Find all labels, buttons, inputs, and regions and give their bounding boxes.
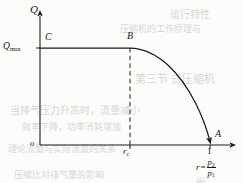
x-tick-label-rc-subscript: c: [127, 150, 130, 157]
y-tick-label-qmax-main: Q: [3, 41, 10, 51]
y-tick-label-qmax: Qmax: [3, 42, 20, 52]
x-tick-label-rc-main: r: [123, 146, 127, 156]
y-axis-label: Q: [30, 4, 38, 15]
figure-container: 运行特性压缩机的工作原理与第三节 式压缩机当排气压力升高时，流量减小效率下降，功…: [0, 0, 243, 183]
origin-label: o: [30, 139, 34, 148]
flow-characteristic-curve: [40, 48, 209, 139]
fraction-denominator-subscript: 1: [212, 172, 215, 178]
x-tick-label-rc: rc: [123, 147, 129, 156]
x-axis-label-expression: r= p2 p1: [196, 158, 216, 177]
fraction-denominator: p1: [207, 169, 216, 178]
fraction-numerator: p2: [207, 158, 216, 167]
pressure-ratio-fraction: p2 p1: [207, 158, 216, 177]
fraction-numerator-subscript: 2: [212, 162, 215, 168]
x-tick-label-one: 1: [207, 147, 212, 156]
point-label-c: C: [45, 32, 52, 42]
x-axis-label-variable: r: [196, 163, 200, 172]
x-axis-label-equals: =: [201, 163, 206, 172]
point-label-b: B: [127, 31, 133, 41]
point-label-a: A: [215, 129, 221, 139]
y-tick-label-qmax-subscript: max: [10, 45, 21, 52]
